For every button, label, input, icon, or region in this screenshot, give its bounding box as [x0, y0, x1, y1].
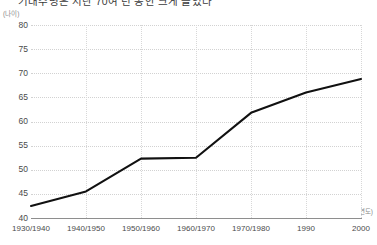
plot-area: [31, 25, 361, 218]
series-line-expectancy: [31, 25, 361, 218]
line-chart: 기대수명은 지난 70여 년 동안 크게 늘었다 (나이) (연도) 40455…: [0, 0, 377, 245]
y-axis-tick-label: 65: [6, 93, 28, 102]
x-axis-tick-label: 1960/1970: [177, 224, 215, 234]
y-axis-tick-label: 55: [6, 141, 28, 150]
x-axis-tick-label: 1930/1940: [12, 224, 50, 234]
y-axis-tick-label: 70: [6, 69, 28, 78]
x-axis-line: [31, 218, 362, 219]
y-axis-tick-label: 80: [6, 21, 28, 30]
y-axis-tick-label: 50: [6, 165, 28, 174]
x-axis-tick-label: 1970/1980: [232, 224, 270, 234]
page-title: 기대수명은 지난 70여 년 동안 크게 늘었다: [18, 0, 358, 7]
gridline-vertical: [361, 25, 362, 218]
x-axis-tick-label: 1940/1950: [67, 224, 105, 234]
y-axis-tick-label: 75: [6, 45, 28, 54]
x-axis-tick-label: 2000: [352, 224, 370, 234]
x-axis-tick-label: 1950/1960: [122, 224, 160, 234]
y-axis-tick-label: 45: [6, 189, 28, 198]
x-axis-tick-label: 1990: [297, 224, 315, 234]
y-axis-tick-label: 60: [6, 117, 28, 126]
y-axis-unit-label: (나이): [3, 10, 19, 18]
y-axis-tick-label: 40: [6, 214, 28, 223]
